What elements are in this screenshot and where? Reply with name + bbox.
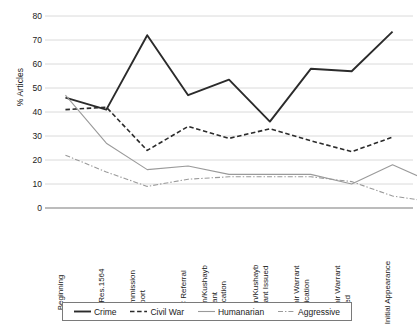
- x-axis-tick-labels: BeginningUN Res.1564CommissionReportICC …: [45, 212, 413, 294]
- legend-line-icon: [278, 308, 295, 315]
- plot-area: [45, 16, 413, 208]
- x-tick-label: Bashir WarrantIssued: [331, 212, 372, 294]
- y-axis-tick-labels: 01020304050607080: [16, 16, 42, 208]
- x-tick-label: Beginning: [45, 212, 86, 294]
- x-tick-label: Initial Appearance: [372, 212, 413, 294]
- legend-line-icon: [130, 308, 147, 315]
- legend-item-aggressive[interactable]: Aggressive: [278, 307, 340, 317]
- x-tick-label-line: Initial Appearance: [383, 260, 393, 324]
- y-tick-label: 70: [20, 36, 42, 45]
- y-tick-label: 20: [20, 156, 42, 165]
- legend-label: Civil War: [150, 307, 184, 317]
- y-tick-label: 50: [20, 84, 42, 93]
- x-tick-label: Harun/KushaybWarrantApplication: [209, 212, 250, 294]
- series-line-crime: [65, 32, 392, 122]
- y-tick-label: 30: [20, 132, 42, 141]
- x-tick-label: CommissionReport: [127, 212, 168, 294]
- y-tick-label: 60: [20, 60, 42, 69]
- y-tick-label: 80: [20, 12, 42, 21]
- y-tick-label: 10: [20, 180, 42, 189]
- y-tick-label: 0: [20, 204, 42, 213]
- x-tick-label: Bashir WarrantApplication: [290, 212, 331, 294]
- legend-label: Humanarian: [218, 307, 264, 317]
- legend-line-icon: [198, 308, 215, 315]
- series-line-humanarian: [65, 95, 417, 184]
- chart-legend: CrimeCivil WarHumanarianAggressive: [62, 302, 352, 321]
- x-tick-label: UN Res.1564: [86, 212, 127, 294]
- legend-item-humanarian[interactable]: Humanarian: [198, 307, 264, 317]
- legend-item-crime[interactable]: Crime: [74, 307, 117, 317]
- legend-label: Aggressive: [298, 307, 340, 317]
- x-tick-label: Harun/KushaybWarrant Issued: [249, 212, 290, 294]
- legend-item-civil-war[interactable]: Civil War: [130, 307, 184, 317]
- line-chart: % Articles 01020304050607080 BeginningUN…: [0, 0, 417, 333]
- legend-label: Crime: [94, 307, 117, 317]
- plot-svg: [45, 16, 413, 208]
- y-tick-label: 40: [20, 108, 42, 117]
- series-line-civil-war: [65, 107, 392, 151]
- legend-line-icon: [74, 308, 91, 315]
